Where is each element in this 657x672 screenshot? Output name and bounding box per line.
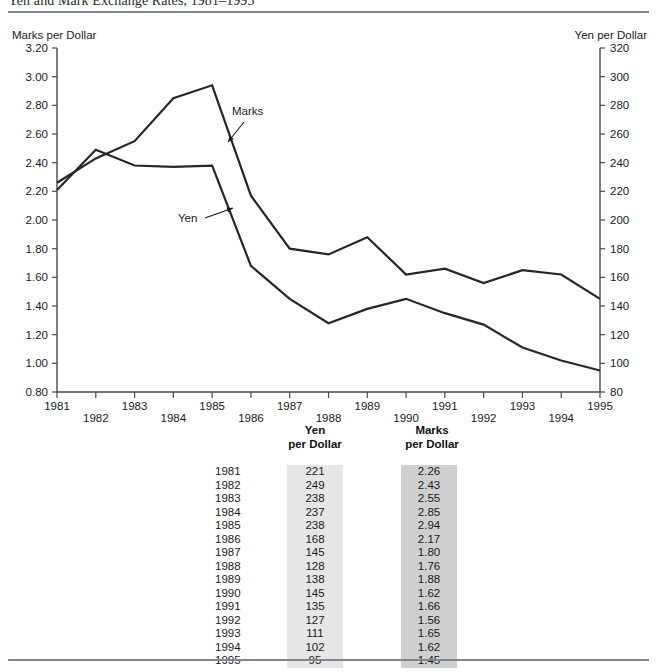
left-tick-label: 1.60	[26, 271, 48, 283]
table-row: 19842372.85	[0, 506, 657, 520]
table-cell-marks: 1.62	[401, 641, 457, 655]
table-header-marks-line2: per Dollar	[390, 438, 474, 452]
table-cell-marks: 2.17	[401, 533, 457, 547]
x-tick-label: 1995	[587, 400, 613, 412]
left-tick-label: 0.80	[26, 386, 48, 398]
table-header-yen: Yen per Dollar	[278, 424, 352, 451]
table-row: 19901451.62	[0, 587, 657, 601]
table-cell-marks: 1.80	[401, 546, 457, 560]
table-cell-yen: 237	[287, 506, 343, 520]
right-tick-label: 240	[610, 157, 629, 169]
table-row: 19852382.94	[0, 519, 657, 533]
table-row: 19812212.26	[0, 465, 657, 479]
x-tick-label: 1989	[354, 400, 380, 412]
table-cell-yen: 135	[287, 600, 343, 614]
table-cell-marks: 1.62	[401, 587, 457, 601]
x-tick-label: 1983	[122, 400, 148, 412]
left-tick-label: 2.20	[26, 185, 48, 197]
table-cell-marks: 1.88	[401, 573, 457, 587]
series-line-yen	[57, 150, 600, 371]
left-tick-label: 2.60	[26, 128, 48, 140]
table-cell-marks: 1.66	[401, 600, 457, 614]
x-tick-label: 1981	[44, 400, 70, 412]
table-row: 19891381.88	[0, 573, 657, 587]
table-cell-marks: 1.56	[401, 614, 457, 628]
x-tick-label: 1987	[277, 400, 303, 412]
table-cell-yen: 249	[287, 479, 343, 493]
divider-bottom	[8, 659, 649, 661]
left-tick-label: 2.80	[26, 99, 48, 111]
figure-container: Yen and Mark Exchange Rates, 1981–1995 M…	[0, 0, 657, 672]
right-tick-label: 320	[610, 42, 629, 54]
table-header-yen-line2: per Dollar	[278, 438, 352, 452]
table-cell-year: 1993	[215, 627, 255, 641]
table-cell-yen: 102	[287, 641, 343, 655]
table-cell-yen: 145	[287, 587, 343, 601]
table-cell-marks: 2.55	[401, 492, 457, 506]
table-cell-yen: 238	[287, 519, 343, 533]
line-chart-plot: 0.801.001.201.401.601.802.002.202.402.60…	[0, 0, 657, 424]
x-tick-label: 1990	[393, 412, 419, 424]
table-row: 19832382.55	[0, 492, 657, 506]
table-cell-year: 1983	[215, 492, 255, 506]
table-cell-year: 1994	[215, 641, 255, 655]
left-tick-label: 1.40	[26, 300, 48, 312]
table-cell-yen: 168	[287, 533, 343, 547]
table-cell-year: 1986	[215, 533, 255, 547]
table-cell-year: 1982	[215, 479, 255, 493]
table-header-marks-line1: Marks	[390, 424, 474, 438]
x-tick-label: 1991	[432, 400, 458, 412]
series-line-marks	[57, 85, 600, 299]
table-row: 19822492.43	[0, 479, 657, 493]
x-tick-label: 1992	[471, 412, 497, 424]
axis-frame	[57, 48, 600, 392]
table-cell-yen: 128	[287, 560, 343, 574]
x-tick-label: 1982	[83, 412, 109, 424]
left-tick-label: 1.00	[26, 357, 48, 369]
table-row: 19861682.17	[0, 533, 657, 547]
right-tick-label: 160	[610, 271, 629, 283]
right-tick-label: 280	[610, 99, 629, 111]
table-row: 19931111.65	[0, 627, 657, 641]
table-cell-yen: 127	[287, 614, 343, 628]
right-tick-label: 80	[610, 386, 623, 398]
left-tick-label: 2.40	[26, 157, 48, 169]
table-row: 19941021.62	[0, 641, 657, 655]
table-row: 19921271.56	[0, 614, 657, 628]
x-tick-label: 1985	[199, 400, 225, 412]
table-cell-year: 1981	[215, 465, 255, 479]
right-tick-label: 100	[610, 357, 629, 369]
table-cell-year: 1988	[215, 560, 255, 574]
x-tick-label: 1986	[238, 412, 264, 424]
table-cell-yen: 145	[287, 546, 343, 560]
table-cell-yen: 238	[287, 492, 343, 506]
right-tick-label: 120	[610, 329, 629, 341]
right-tick-label: 260	[610, 128, 629, 140]
left-tick-label: 3.00	[26, 71, 48, 83]
table-header-marks: Marks per Dollar	[390, 424, 474, 451]
table-cell-marks: 2.85	[401, 506, 457, 520]
left-tick-label: 1.80	[26, 243, 48, 255]
table-cell-marks: 2.94	[401, 519, 457, 533]
annotation-label-marks: Marks	[232, 105, 264, 117]
x-tick-label: 1993	[510, 400, 536, 412]
table-cell-year: 1990	[215, 587, 255, 601]
table-row: 19881281.76	[0, 560, 657, 574]
right-tick-label: 220	[610, 185, 629, 197]
table-row: 19871451.80	[0, 546, 657, 560]
table-row: 19911351.66	[0, 600, 657, 614]
right-tick-label: 300	[610, 71, 629, 83]
annotation-label-yen: Yen	[178, 212, 197, 224]
table-cell-marks: 1.65	[401, 627, 457, 641]
table-cell-marks: 2.43	[401, 479, 457, 493]
table-cell-year: 1991	[215, 600, 255, 614]
left-tick-label: 3.20	[26, 42, 48, 54]
table-header-yen-line1: Yen	[278, 424, 352, 438]
table-cell-yen: 221	[287, 465, 343, 479]
right-tick-label: 140	[610, 300, 629, 312]
table-cell-marks: 2.26	[401, 465, 457, 479]
table-cell-yen: 111	[287, 627, 343, 641]
x-tick-label: 1994	[548, 412, 574, 424]
table-cell-year: 1992	[215, 614, 255, 628]
table-cell-year: 1984	[215, 506, 255, 520]
